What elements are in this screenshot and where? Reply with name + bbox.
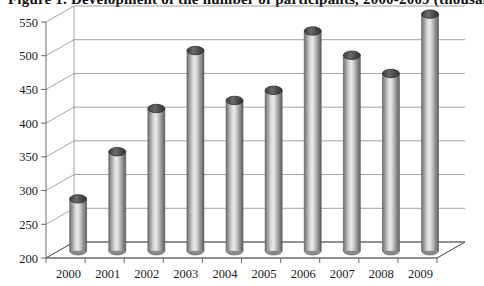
gridline: [46, 6, 465, 22]
gridline: [46, 73, 465, 89]
y-axis-tick-label: 400: [19, 117, 38, 131]
bar-2000: [70, 195, 87, 255]
gridline: [46, 40, 465, 56]
x-axis-tick-label: 2009: [408, 267, 433, 281]
gridline: [46, 107, 465, 123]
bar-2003: [187, 46, 204, 255]
y-axis-tick-label: 350: [19, 150, 38, 164]
bar-2002: [148, 104, 165, 255]
x-axis-tick-label: 2000: [56, 267, 81, 281]
x-axis-tick-label: 2005: [252, 267, 277, 281]
y-axis-tick-label: 200: [19, 252, 38, 266]
bar-2009: [422, 10, 439, 255]
x-axis-tick-label: 2006: [291, 267, 316, 281]
bar-2005: [265, 86, 282, 255]
bar-2007: [343, 51, 360, 255]
x-axis-tick-label: 2002: [134, 267, 159, 281]
y-axis-tick-label: 300: [19, 184, 38, 198]
y-axis-tick-label: 500: [19, 49, 38, 63]
bar-2008: [382, 69, 399, 255]
x-axis-tick-label: 2001: [95, 267, 120, 281]
chart-plot-area: 2002503003504004505005502000200120022003…: [0, 0, 484, 286]
y-axis-tick-label: 250: [19, 218, 38, 232]
bar-chart: Figure 1. Development of the number of p…: [0, 0, 484, 286]
bar-2001: [109, 147, 126, 255]
x-axis-tick-label: 2004: [212, 267, 238, 281]
y-axis-tick-label: 450: [19, 83, 38, 97]
x-axis-tick-label: 2008: [369, 267, 394, 281]
x-axis-tick-label: 2003: [173, 267, 198, 281]
x-axis-tick-label: 2007: [330, 267, 355, 281]
bar-2004: [226, 96, 243, 255]
bar-2006: [304, 27, 321, 255]
y-axis-tick-label: 550: [19, 16, 38, 30]
